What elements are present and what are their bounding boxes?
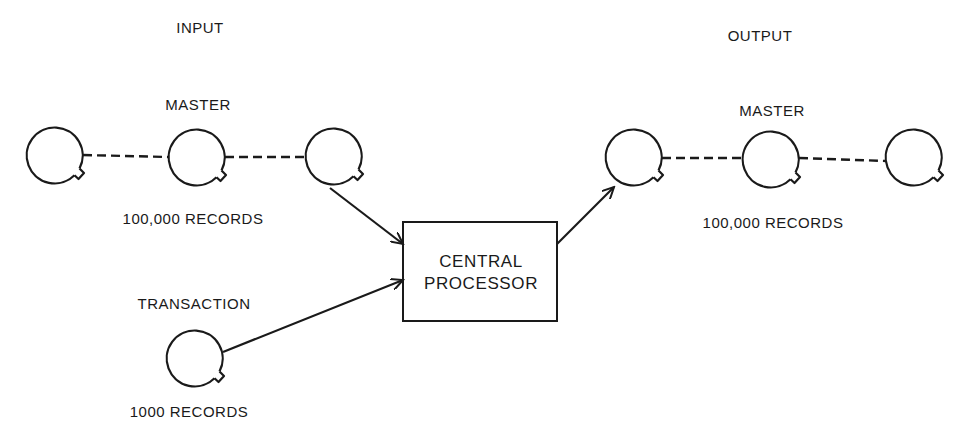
output-master-label: MASTER [739, 103, 805, 118]
transaction-reel [167, 331, 224, 387]
transaction-label: TRANSACTION [137, 296, 250, 311]
arrow-transaction-to-processor [223, 280, 403, 352]
output-master-reel-2 [743, 132, 800, 188]
transaction-records: 1000 RECORDS [130, 404, 249, 419]
input-master-reel-2 [169, 130, 226, 186]
processor-line-1: CENTRAL [424, 251, 538, 273]
input-master-label: MASTER [165, 97, 231, 112]
input-master-records: 100,000 RECORDS [123, 211, 264, 226]
output-section-label: OUTPUT [728, 28, 793, 43]
arrow-processor-to-output-master [557, 187, 614, 244]
input-master-reel-3 [306, 129, 363, 185]
input-section-label: INPUT [176, 20, 224, 35]
output-master-reel-1 [606, 130, 663, 186]
output-master-reel-3 [886, 130, 943, 186]
input-master-reel-1 [27, 128, 84, 184]
output-master-records: 100,000 RECORDS [703, 215, 844, 230]
arrow-input-master-to-processor [330, 188, 403, 244]
central-processor-label: CENTRAL PROCESSOR [424, 251, 538, 295]
processor-line-2: PROCESSOR [424, 273, 538, 295]
